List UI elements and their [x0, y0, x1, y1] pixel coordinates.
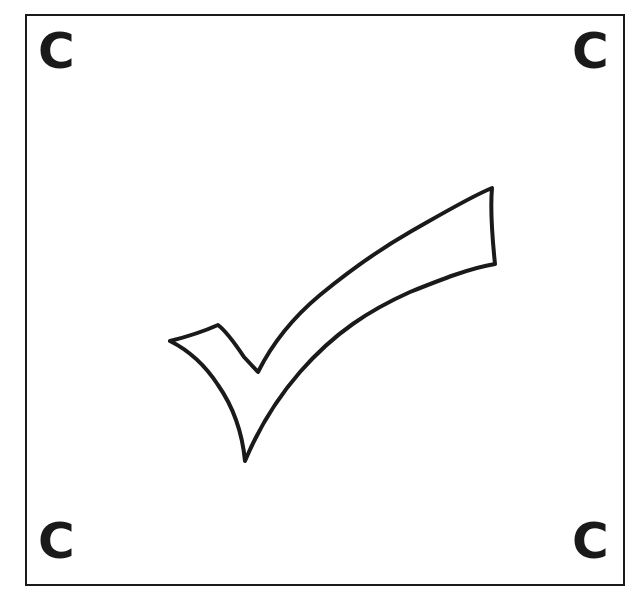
checkmark-icon: [0, 0, 643, 607]
